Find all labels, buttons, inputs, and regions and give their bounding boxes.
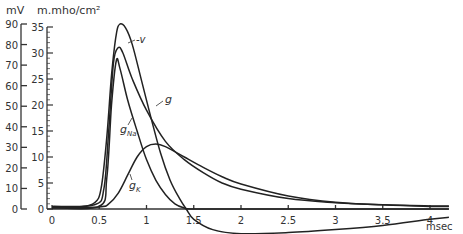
annotation-gna-pointer [128,118,132,125]
x-tick-label: 0.5 [91,215,107,226]
hodgkin-huxley-chart: 01020304050607080900510152025303500.511.… [0,0,463,234]
y-left-tick-label: 50 [5,101,18,112]
y-left-tick-label: 0 [12,204,18,215]
y-left-unit-label: mV [6,4,25,17]
y-right-tick-label: 15 [31,126,44,137]
y-left-tick-label: 60 [5,81,18,92]
y-left-tick-label: 10 [5,183,18,194]
y-right-unit-label: m.mho/cm² [37,4,101,17]
annotation-g: g [165,93,172,106]
tick-labels: 01020304050607080900510152025303500.511.… [5,19,433,226]
y-left-tick-label: 20 [5,163,18,174]
y-right-tick-label: 5 [38,178,44,189]
annotation-gna: gNa [120,123,137,138]
y-left-tick-label: 40 [5,122,18,133]
x-tick-label: 2.5 [280,215,296,226]
x-unit-label: msec [426,221,453,232]
y-right-tick-label: 0 [38,204,44,215]
y-right-tick-label: 30 [31,48,44,59]
x-tick-label: 1.5 [186,215,202,226]
curves [52,24,449,234]
x-tick-label: 2 [238,215,244,226]
y-right-tick-label: 20 [31,100,44,111]
y-right-tick-label: 10 [31,152,44,163]
x-tick-label: 0 [49,215,55,226]
x-tick-label: 3 [332,215,338,226]
annotation-v: -v [136,34,147,45]
axes [21,24,449,209]
y-left-tick-label: 30 [5,142,18,153]
y-left-tick-label: 70 [5,60,18,71]
annotation-gk: gK [129,179,142,194]
curve-potassium-conductance [52,144,449,207]
y-right-tick-label: 25 [31,74,44,85]
y-right-tick-label: 35 [31,22,44,33]
annotation-g-pointer [156,101,163,106]
y-left-tick-label: 90 [5,19,18,30]
x-tick-label: 1 [143,215,149,226]
y-left-tick-label: 80 [5,40,18,51]
